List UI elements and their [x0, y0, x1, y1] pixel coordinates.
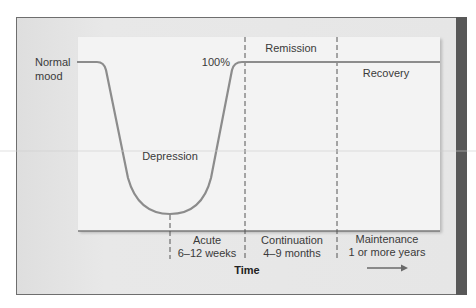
- x-axis-title: Time: [234, 264, 259, 276]
- recovery-label: Recovery: [363, 67, 410, 79]
- treatment-phases-chart: Normal mood 100% Depression Remission Re…: [0, 0, 476, 308]
- normal-mood-label-line2: mood: [35, 70, 63, 82]
- depression-label: Depression: [142, 150, 198, 162]
- phase-acute-duration: 6–12 weeks: [178, 247, 237, 259]
- phase-continuation-duration: 4–9 months: [263, 247, 321, 259]
- phase-continuation-name: Continuation: [261, 234, 323, 246]
- phase-maintenance-duration: 1 or more years: [348, 246, 426, 258]
- normal-mood-label-line1: Normal: [35, 56, 70, 68]
- phase-maintenance-name: Maintenance: [356, 233, 419, 245]
- hundred-percent-label: 100%: [202, 56, 230, 68]
- phase-acute-name: Acute: [193, 234, 221, 246]
- side-bar: [456, 17, 467, 295]
- remission-label: Remission: [265, 42, 316, 54]
